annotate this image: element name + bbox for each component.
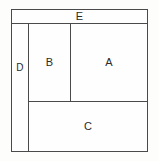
region-e[interactable]: E (11, 9, 148, 24)
region-a[interactable]: A (70, 23, 148, 102)
region-d[interactable]: D (11, 23, 29, 152)
region-c[interactable]: C (28, 101, 148, 152)
region-b[interactable]: B (28, 23, 71, 102)
region-c-label: C (84, 121, 92, 132)
region-d-label: D (16, 63, 24, 73)
region-e-label: E (76, 11, 84, 22)
region-b-label: B (46, 57, 54, 68)
region-a-label: A (105, 57, 113, 68)
partition-diagram-canvas: E D B A C (0, 0, 159, 161)
